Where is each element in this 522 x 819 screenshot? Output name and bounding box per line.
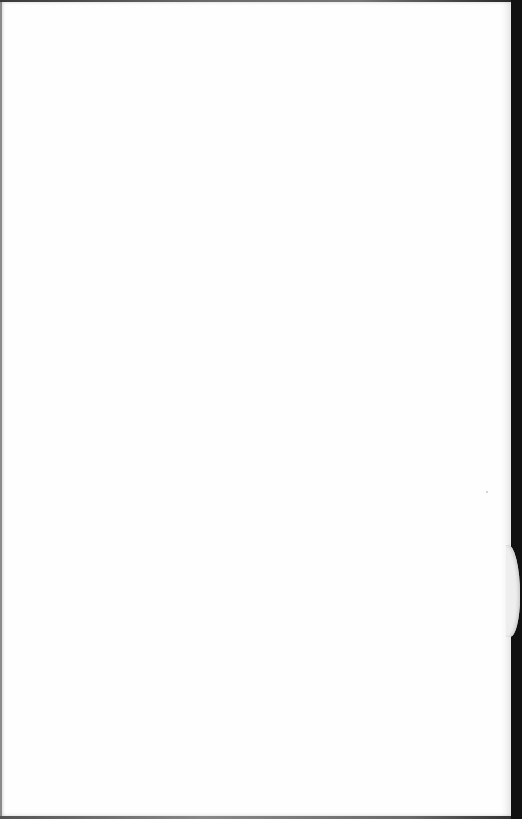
page-left-edge — [0, 2, 2, 816]
paper-tear — [506, 545, 520, 637]
scan-background — [0, 0, 522, 819]
page-top-edge — [0, 0, 511, 2]
paper-speck — [486, 491, 488, 493]
blank-page — [0, 2, 511, 816]
